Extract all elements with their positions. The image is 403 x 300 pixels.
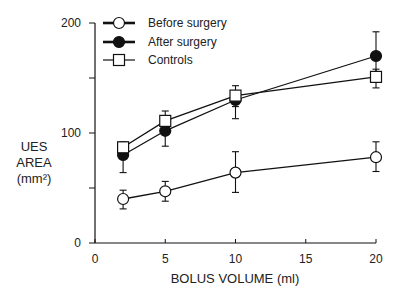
open-circle-marker	[230, 167, 241, 178]
legend-item-controls: Controls	[103, 53, 193, 67]
series-before-surgery	[120, 142, 380, 209]
axes: 051015200100200	[61, 16, 383, 266]
legend-label: Controls	[148, 53, 193, 67]
x-axis-title: BOLUS VOLUME (ml)	[171, 271, 300, 286]
legend-label: Before surgery	[148, 16, 227, 30]
open-square-marker	[230, 90, 241, 101]
y-axis-title-line-3: (mm²)	[17, 171, 52, 186]
x-tick-label: 15	[299, 252, 313, 266]
markers-before-surgery	[118, 152, 382, 205]
y-tick-label: 100	[61, 126, 81, 140]
y-tick-label: 0	[74, 236, 81, 250]
filled-circle-marker	[371, 51, 382, 62]
open-circle-marker	[160, 186, 171, 197]
x-tick-label: 5	[162, 252, 169, 266]
legend-label: After surgery	[148, 35, 217, 49]
y-tick-label: 200	[61, 16, 81, 30]
legend-item-before-surgery: Before surgery	[103, 16, 227, 30]
axis-labels: BOLUS VOLUME (ml) UES AREA (mm²)	[16, 139, 299, 286]
markers-controls	[118, 71, 382, 152]
legend-item-after-surgery: After surgery	[103, 35, 217, 49]
legend-open-circle-icon	[114, 18, 125, 29]
open-square-marker	[160, 115, 171, 126]
series-controls	[120, 69, 380, 155]
open-circle-marker	[371, 152, 382, 163]
y-axis-title-line-1: UES	[21, 139, 48, 154]
x-tick-label: 20	[369, 252, 383, 266]
chart: 051015200100200 Before surgeryAfter surg…	[0, 0, 403, 300]
x-tick-label: 0	[92, 252, 99, 266]
open-square-marker	[118, 142, 129, 153]
legend-filled-circle-icon	[114, 37, 125, 48]
open-square-marker	[371, 71, 382, 82]
open-circle-marker	[118, 194, 129, 205]
legend-open-square-icon	[114, 55, 125, 66]
series-line	[123, 56, 376, 155]
series-line	[123, 77, 376, 147]
line-chart-canvas: 051015200100200 Before surgeryAfter surg…	[0, 0, 403, 300]
y-axis-title-line-2: AREA	[16, 155, 52, 170]
x-tick-label: 10	[229, 252, 243, 266]
legend: Before surgeryAfter surgeryControls	[103, 16, 227, 67]
